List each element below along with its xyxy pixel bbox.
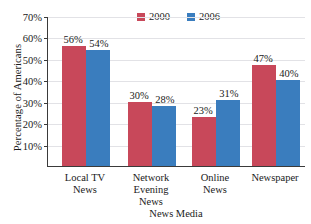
category-label-line: News xyxy=(47,184,123,196)
bar-2000[interactable]: 23% xyxy=(192,117,216,166)
category-label-line: Local TV xyxy=(47,172,123,184)
x-axis-category-label: Newspaper xyxy=(237,172,311,184)
category-label-line: News xyxy=(113,196,189,208)
bar-value-label: 47% xyxy=(253,53,272,64)
y-axis-tick xyxy=(44,60,48,61)
category-label-line: Newspaper xyxy=(237,172,311,184)
bar-value-label: 28% xyxy=(155,94,174,105)
bar-2006[interactable]: 54% xyxy=(86,50,110,166)
bar-2000[interactable]: 47% xyxy=(252,65,276,166)
y-axis-tick-label: 70% xyxy=(23,12,42,23)
y-axis-tick xyxy=(44,81,48,82)
bar-value-label: 31% xyxy=(219,88,238,99)
bar-2000[interactable]: 56% xyxy=(62,46,86,166)
x-axis-title: News Media xyxy=(47,208,305,219)
bar-2006[interactable]: 31% xyxy=(216,100,240,166)
y-axis-tick xyxy=(44,124,48,125)
y-axis-tick-label: 50% xyxy=(23,54,42,65)
bar-group: 56%54% xyxy=(62,17,110,166)
y-axis-tick-label: 60% xyxy=(23,33,42,44)
y-axis-tick xyxy=(44,38,48,39)
bar-group: 30%28% xyxy=(128,17,176,166)
bar-value-label: 23% xyxy=(193,105,212,116)
bar-2006[interactable]: 40% xyxy=(276,80,300,166)
y-axis-tick-label: 30% xyxy=(23,97,42,108)
y-axis-tick xyxy=(44,103,48,104)
bar-value-label: 30% xyxy=(129,90,148,101)
bar-2006[interactable]: 28% xyxy=(152,106,176,166)
bar-value-label: 56% xyxy=(63,34,82,45)
y-axis-tick-label: 10% xyxy=(23,140,42,151)
plot-area: 70%60%50%40%30%20%10%56%54%30%28%23%31%4… xyxy=(47,17,305,167)
bar-2000[interactable]: 30% xyxy=(128,102,152,166)
y-axis-title: Percentage of Americans xyxy=(12,28,23,168)
category-label-line: News xyxy=(177,184,253,196)
bar-group: 23%31% xyxy=(192,17,240,166)
bar-group: 47%40% xyxy=(252,17,300,166)
bar-value-label: 54% xyxy=(89,38,108,49)
y-axis-tick-label: 40% xyxy=(23,76,42,87)
y-axis-tick xyxy=(44,17,48,18)
y-axis-tick xyxy=(44,146,48,147)
x-axis-category-label: Local TVNews xyxy=(47,172,123,196)
y-axis-tick-label: 20% xyxy=(23,119,42,130)
bar-value-label: 40% xyxy=(279,68,298,79)
bar-chart: Percentage of Americans 20002006 70%60%5… xyxy=(0,0,311,224)
